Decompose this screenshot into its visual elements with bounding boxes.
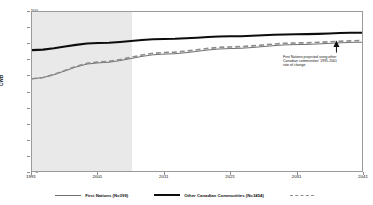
legend-item-other-canadian-communities: Other Canadian Communities (N=3454) xyxy=(154,193,264,198)
legend-item-projected xyxy=(290,195,318,196)
legend-label-other-canadian-communities: Other Canadian Communities (N=3454) xyxy=(184,193,264,198)
chart-container: CWB 1009080706050403020100 1991200120112… xyxy=(0,0,373,205)
annotation-arrow-icon xyxy=(0,0,373,205)
chart-legend: First Nations (N=399) Other Canadian Com… xyxy=(0,188,373,202)
legend-item-first-nations: First Nations (N=399) xyxy=(55,193,128,198)
legend-swatch-thick-line-icon xyxy=(154,194,180,196)
projection-annotation: First Nations projected using other Cana… xyxy=(283,55,363,68)
legend-swatch-thin-line-icon xyxy=(55,195,81,196)
legend-swatch-dashed-line-icon xyxy=(290,195,314,196)
annotation-line-3: rate of change xyxy=(283,63,363,67)
legend-label-first-nations: First Nations (N=399) xyxy=(85,193,128,198)
